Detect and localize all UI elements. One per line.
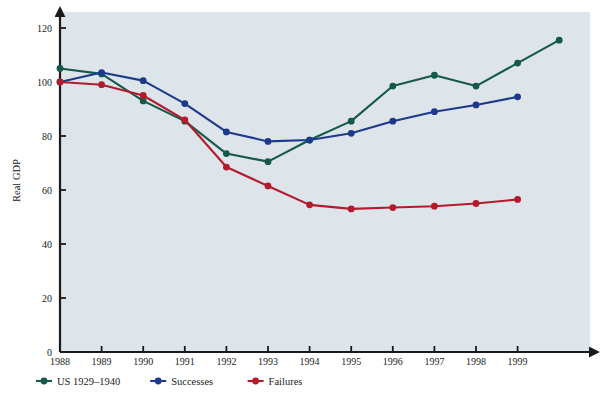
data-point bbox=[98, 69, 105, 76]
chart-figure: 0204060801001201988198919901991199219931… bbox=[0, 0, 606, 402]
data-point bbox=[265, 158, 272, 165]
data-point bbox=[140, 77, 147, 84]
x-tick-label: 1988 bbox=[50, 356, 70, 367]
x-tick-label: 1989 bbox=[92, 356, 112, 367]
data-point bbox=[306, 201, 313, 208]
legend-swatch-marker bbox=[252, 378, 259, 385]
data-point bbox=[473, 83, 480, 90]
data-point bbox=[514, 60, 521, 67]
y-tick-label: 120 bbox=[37, 23, 52, 34]
data-point bbox=[140, 92, 147, 99]
data-point bbox=[223, 150, 230, 157]
x-tick-label: 1997 bbox=[424, 356, 444, 367]
y-tick-label: 60 bbox=[42, 185, 52, 196]
y-axis-label: Real GDP bbox=[11, 159, 22, 202]
y-axis-ticks: 020406080100120 bbox=[37, 23, 66, 358]
series-3 bbox=[57, 79, 521, 213]
data-point bbox=[473, 102, 480, 109]
legend-label: US 1929–1940 bbox=[57, 376, 120, 387]
y-tick-label: 40 bbox=[42, 239, 52, 250]
x-tick-label: 1991 bbox=[175, 356, 195, 367]
data-point bbox=[223, 164, 230, 171]
data-point bbox=[348, 118, 355, 125]
data-point bbox=[265, 138, 272, 145]
legend-swatch-marker bbox=[155, 378, 162, 385]
data-point bbox=[514, 196, 521, 203]
data-point bbox=[389, 118, 396, 125]
data-point bbox=[514, 93, 521, 100]
legend-swatch-marker bbox=[41, 378, 48, 385]
series-1 bbox=[57, 37, 563, 165]
data-point bbox=[181, 100, 188, 107]
series-line bbox=[60, 82, 518, 209]
data-point bbox=[389, 83, 396, 90]
data-point bbox=[265, 183, 272, 190]
data-point bbox=[473, 200, 480, 207]
y-tick-label: 20 bbox=[42, 293, 52, 304]
x-tick-label: 1993 bbox=[258, 356, 278, 367]
data-point bbox=[389, 204, 396, 211]
x-tick-label: 1998 bbox=[466, 356, 486, 367]
data-point bbox=[556, 37, 563, 44]
x-tick-label: 1990 bbox=[133, 356, 153, 367]
x-tick-label: 1992 bbox=[216, 356, 236, 367]
chart-legend: US 1929–1940SuccessesFailures bbox=[36, 376, 302, 387]
data-point bbox=[181, 116, 188, 123]
data-point bbox=[431, 108, 438, 115]
y-tick-label: 100 bbox=[37, 77, 52, 88]
x-tick-label: 1995 bbox=[341, 356, 361, 367]
data-point bbox=[57, 79, 64, 86]
y-tick-label: 80 bbox=[42, 131, 52, 142]
data-point bbox=[57, 65, 64, 72]
data-point bbox=[223, 129, 230, 136]
series-line bbox=[60, 73, 518, 142]
data-point bbox=[306, 137, 313, 144]
data-point bbox=[431, 203, 438, 210]
data-point bbox=[348, 206, 355, 213]
legend-label: Failures bbox=[269, 376, 303, 387]
x-tick-label: 1999 bbox=[508, 356, 528, 367]
x-axis-ticks: 1988198919901991199219931994199519961997… bbox=[50, 346, 528, 367]
x-tick-label: 1996 bbox=[383, 356, 403, 367]
legend-label: Successes bbox=[171, 376, 213, 387]
x-tick-label: 1994 bbox=[300, 356, 320, 367]
line-chart: 0204060801001201988198919901991199219931… bbox=[0, 0, 606, 402]
data-point bbox=[431, 72, 438, 79]
data-point bbox=[348, 130, 355, 137]
data-point bbox=[98, 81, 105, 88]
